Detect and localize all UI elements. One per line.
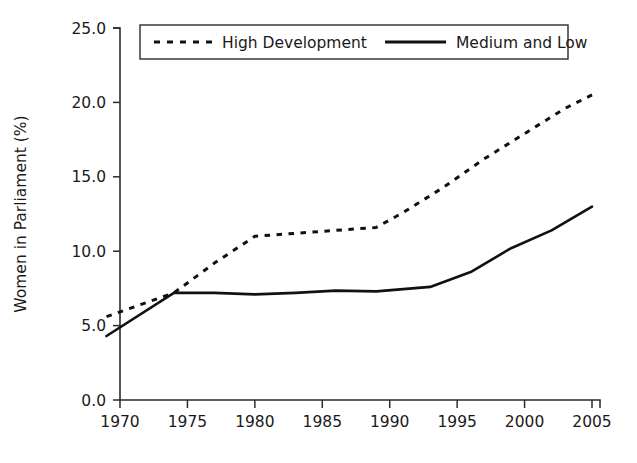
y-axis-title: Women in Parliament (%) xyxy=(12,115,30,312)
y-axis-tick-label: 25.0 xyxy=(71,20,106,38)
legend-label-2: Medium and Low xyxy=(456,34,588,52)
data-series xyxy=(107,95,592,336)
series-line-2 xyxy=(107,207,592,336)
series-line-1 xyxy=(107,95,592,317)
y-axis-tick-label: 5.0 xyxy=(81,317,106,335)
y-axis-tick-label: 0.0 xyxy=(81,392,106,410)
y-axis-tick-label: 15.0 xyxy=(71,168,106,186)
chart-legend: High DevelopmentMedium and Low xyxy=(140,25,588,59)
x-axis-tick-label: 1980 xyxy=(235,413,274,431)
x-axis-tick-label: 1990 xyxy=(370,413,409,431)
axes: 0.05.010.015.020.025.0197019751980198519… xyxy=(71,20,611,432)
y-axis-tick-label: 10.0 xyxy=(71,243,106,261)
x-axis-tick-label: 2005 xyxy=(572,413,611,431)
x-axis-tick-label: 1985 xyxy=(303,413,342,431)
legend-label-1: High Development xyxy=(222,34,367,52)
x-axis-tick-label: 1970 xyxy=(100,413,139,431)
x-axis-tick-label: 2000 xyxy=(505,413,544,431)
chart-container: 0.05.010.015.020.025.0197019751980198519… xyxy=(0,0,637,463)
x-axis-tick-label: 1975 xyxy=(168,413,207,431)
axis-labels: Women in Parliament (%) xyxy=(12,115,30,312)
x-axis-tick-label: 1995 xyxy=(437,413,476,431)
y-axis-tick-label: 20.0 xyxy=(71,94,106,112)
line-chart: 0.05.010.015.020.025.0197019751980198519… xyxy=(0,0,637,463)
